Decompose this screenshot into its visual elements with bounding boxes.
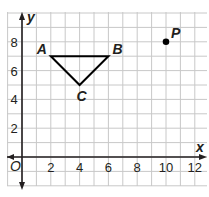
x-tick-label: 2 bbox=[47, 160, 54, 175]
vertex-label-a: A bbox=[36, 41, 47, 57]
y-axis-label: y bbox=[26, 9, 36, 25]
y-tick-label: 4 bbox=[10, 92, 17, 107]
x-tick-label: 12 bbox=[188, 160, 202, 175]
point-p-label: P bbox=[171, 25, 181, 41]
x-tick-label: 10 bbox=[159, 160, 173, 175]
y-tick-label: 2 bbox=[10, 121, 17, 136]
vertex-label-b: B bbox=[112, 41, 122, 57]
coordinate-plane: 246810122468 x y O ABC P bbox=[0, 0, 209, 197]
point-p bbox=[163, 39, 170, 46]
x-axis-label: x bbox=[195, 139, 205, 155]
x-tick-label: 8 bbox=[134, 160, 141, 175]
vertex-label-c: C bbox=[77, 88, 88, 104]
x-tick-label: 6 bbox=[105, 160, 112, 175]
x-tick-label: 4 bbox=[76, 160, 83, 175]
y-tick-label: 6 bbox=[10, 64, 17, 79]
origin-label: O bbox=[10, 158, 21, 174]
y-tick-label: 8 bbox=[10, 35, 17, 50]
